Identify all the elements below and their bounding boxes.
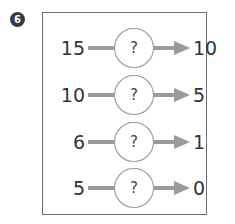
- unknown-operator[interactable]: ?: [114, 122, 154, 162]
- arrow-head-icon: [174, 41, 190, 55]
- machine-row: 5 ? 0: [0, 168, 235, 210]
- output-value: 0: [193, 176, 205, 200]
- machine-row: 15 ? 10: [0, 28, 235, 70]
- machine-row: 10 ? 5: [0, 75, 235, 117]
- arrow-head-icon: [174, 135, 190, 149]
- problem-number-badge: 6: [10, 12, 25, 27]
- output-value: 1: [193, 130, 205, 154]
- machine-row: 6 ? 1: [0, 122, 235, 164]
- arrow-head-icon: [174, 181, 190, 195]
- output-value: 10: [193, 36, 217, 60]
- unknown-operator[interactable]: ?: [114, 75, 154, 115]
- unknown-operator[interactable]: ?: [114, 28, 154, 68]
- arrow-head-icon: [174, 88, 190, 102]
- unknown-operator[interactable]: ?: [114, 168, 154, 208]
- output-value: 5: [193, 83, 205, 107]
